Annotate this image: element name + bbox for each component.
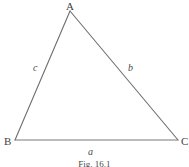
figure-container: A B C c b a Fig. 16.1 bbox=[0, 0, 189, 167]
figure-caption: Fig. 16.1 bbox=[0, 160, 189, 167]
vertex-label-c: C bbox=[181, 136, 188, 147]
side-ac-line bbox=[70, 11, 178, 140]
vertex-label-a: A bbox=[66, 1, 74, 12]
side-label-b: b bbox=[128, 63, 133, 73]
vertex-label-b: B bbox=[4, 136, 11, 147]
triangle-diagram bbox=[0, 0, 189, 167]
side-label-a: a bbox=[88, 147, 93, 157]
side-label-c: c bbox=[33, 63, 37, 73]
side-ab-line bbox=[15, 11, 70, 140]
